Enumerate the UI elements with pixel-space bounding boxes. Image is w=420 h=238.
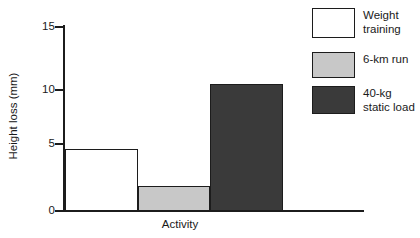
legend-item-40kg-static-load: 40-kg static load (312, 86, 415, 114)
legend-label-40kg-static-load: 40-kg static load (363, 86, 415, 114)
legend-swatch-40kg-static-load (312, 86, 355, 114)
x-axis-line (63, 210, 364, 212)
y-axis-title: Height loss (mm) (7, 56, 19, 176)
y-tick-label-2: 10 (15, 84, 55, 96)
legend-label-6km-run: 6-km run (363, 52, 408, 67)
bar-chart-figure: Height loss (mm) 0 5 10 15 Activity Weig… (0, 0, 420, 238)
bar-weight-training (65, 149, 138, 211)
y-tick-label-0: 0 (15, 205, 55, 217)
y-tick-group-3: 15 (0, 21, 55, 33)
legend-item-6km-run: 6-km run (312, 52, 408, 78)
bar-6km-run (138, 186, 211, 211)
legend-swatch-weight-training (312, 8, 355, 38)
legend-label-weight-training: Weight training (363, 8, 401, 36)
y-tick-label-3: 15 (15, 21, 55, 33)
y-tick-group-2: 10 (0, 84, 55, 96)
bar-40kg-static-load (210, 84, 283, 211)
legend-swatch-6km-run (312, 52, 355, 78)
y-tick-group-0: 0 (0, 205, 55, 217)
y-axis-line (63, 25, 65, 212)
y-tick-label-1: 5 (15, 138, 55, 150)
y-tick-group-1: 5 (0, 138, 55, 150)
x-axis-title: Activity (135, 218, 225, 230)
legend-item-weight-training: Weight training (312, 8, 401, 38)
